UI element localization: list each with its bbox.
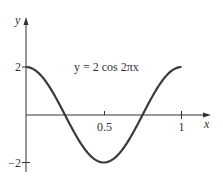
- y-tick-label-neg2: −2: [8, 156, 21, 170]
- y-axis-label: y: [14, 13, 21, 27]
- y-tick-label-2: 2: [15, 60, 21, 74]
- x-tick-label-1: 1: [179, 120, 185, 134]
- cosine-chart: y x 0.5 1 2 −2 y = 2 cos 2πx: [0, 0, 223, 185]
- x-axis-label: x: [203, 117, 210, 131]
- equation-annotation: y = 2 cos 2πx: [74, 60, 139, 74]
- y-axis-arrow-icon: [24, 17, 29, 25]
- x-tick-label-0.5: 0.5: [97, 120, 112, 134]
